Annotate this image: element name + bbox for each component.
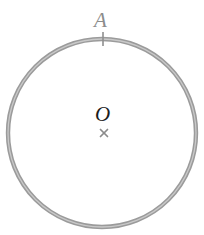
center-cross-icon [101, 130, 108, 137]
main-circle [8, 39, 196, 227]
geometry-figure: A O [0, 0, 204, 235]
point-label-a: A [94, 10, 107, 31]
center-label-o: O [95, 104, 110, 125]
circle-group [8, 39, 196, 227]
